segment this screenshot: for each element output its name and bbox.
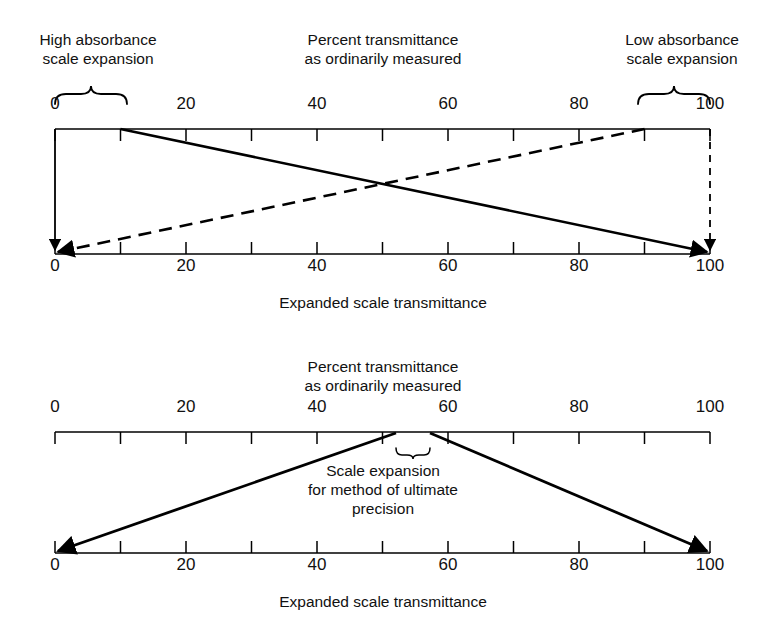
chart-top-bottom-axis-ticks	[55, 242, 710, 254]
chart-top-bottom-tick-label-40: 40	[308, 256, 327, 276]
chart-top-bottom-tick-label-20: 20	[177, 256, 196, 276]
chart-top-top-tick-label-80: 80	[570, 94, 589, 114]
chart-bottom-bottom-tick-label-20: 20	[177, 555, 196, 575]
chart-bottom-top-tick-label-100: 100	[696, 397, 724, 417]
chart-bottom-bottom-tick-label-0: 0	[50, 555, 59, 575]
chart-top-top-tick-label-60: 60	[439, 94, 458, 114]
chart-bottom-top-tick-label-80: 80	[570, 397, 589, 417]
chart-bottom-bottom-tick-label-80: 80	[570, 555, 589, 575]
chart-bottom-top-tick-label-0: 0	[50, 397, 59, 417]
chart-bottom-top-tick-label-60: 60	[439, 397, 458, 417]
chart-bottom-top-tick-label-40: 40	[308, 397, 327, 417]
figure-canvas	[0, 0, 784, 633]
chart-top-bottom-tick-label-100: 100	[696, 256, 724, 276]
chart-bottom-bottom-tick-label-60: 60	[439, 555, 458, 575]
chart-top-brace-high-absorbance	[55, 86, 127, 104]
chart-top-group	[55, 86, 710, 254]
chart-top-solid-diagonal	[121, 129, 708, 252]
chart-bottom-top-tick-label-20: 20	[177, 397, 196, 417]
chart-bottom-bottom-tick-label-40: 40	[308, 555, 327, 575]
chart-bottom-right-leg	[430, 433, 707, 551]
chart-top-top-tick-label-100: 100	[696, 94, 724, 114]
chart-bottom-group	[55, 432, 710, 553]
chart-top-top-tick-label-0: 0	[50, 94, 59, 114]
transmittance-scale-expansion-figure: High absorbance scale expansion Percent …	[0, 0, 784, 633]
chart-bottom-bottom-tick-label-100: 100	[696, 555, 724, 575]
chart-bottom-bottom-axis-ticks	[55, 541, 710, 553]
chart-top-top-tick-label-20: 20	[177, 94, 196, 114]
chart-top-bottom-tick-label-0: 0	[50, 256, 59, 276]
chart-top-bottom-tick-label-60: 60	[439, 256, 458, 276]
chart-top-bottom-tick-label-80: 80	[570, 256, 589, 276]
chart-bottom-brace-ultimate-precision	[396, 448, 430, 459]
chart-top-top-tick-label-40: 40	[308, 94, 327, 114]
chart-top-dashed-diagonal	[58, 129, 645, 252]
chart-bottom-left-leg	[58, 433, 396, 551]
